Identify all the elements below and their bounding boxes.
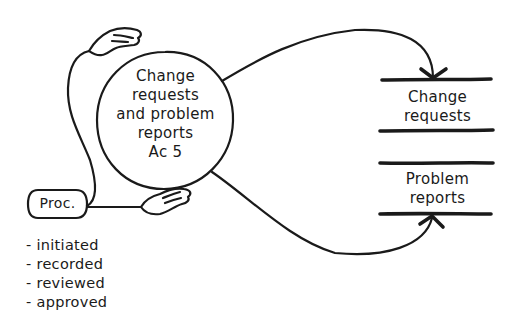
- data-store-label-line: requests: [385, 107, 490, 126]
- procedure-step: - initiated: [26, 236, 99, 254]
- process-label: Change requests and problem reports Ac 5: [108, 67, 223, 162]
- process-label-line: Ac 5: [108, 143, 223, 162]
- procedure-step: - recorded: [26, 255, 103, 273]
- process-label-line: Change: [108, 67, 223, 86]
- procedure-step: - reviewed: [26, 274, 105, 292]
- process-label-line: and problem: [108, 105, 223, 124]
- connector-upper: [68, 51, 95, 206]
- process-label-line: reports: [108, 124, 223, 143]
- data-store-label-line: reports: [385, 189, 490, 208]
- data-store-label-line: Problem: [385, 170, 490, 189]
- external-entity-label: Proc.: [28, 194, 87, 213]
- data-store-label-line: Change: [385, 88, 490, 107]
- hand-icon: [141, 189, 190, 215]
- data-store-problem-reports-label: Problem reports: [385, 170, 490, 208]
- process-label-line: requests: [108, 86, 223, 105]
- flow-to-change-requests: [222, 30, 446, 81]
- procedure-step: - approved: [26, 293, 107, 311]
- hand-icon: [89, 28, 141, 55]
- data-store-change-requests-label: Change requests: [385, 88, 490, 126]
